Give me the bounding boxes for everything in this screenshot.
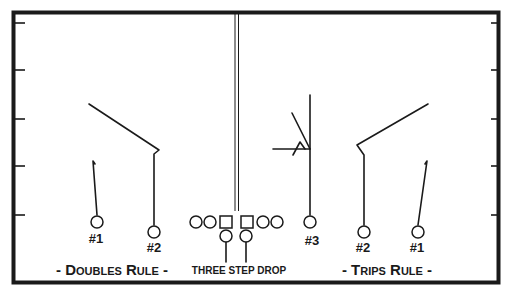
fade-route (418, 161, 427, 225)
caption-part: ULE (401, 265, 423, 277)
three-step-drop-caption: THREE STEP DROP (192, 265, 287, 276)
receiver-label: #1 (410, 240, 424, 255)
receiver-label: #2 (147, 240, 161, 255)
receiver-marker (412, 226, 424, 238)
receiver-marker (91, 216, 103, 228)
caption-part: - T (342, 261, 360, 278)
corner-route (89, 104, 159, 225)
back-marker (220, 230, 232, 242)
back-marker (240, 230, 252, 242)
lineman-marker (257, 216, 269, 228)
caption-part: - (423, 261, 432, 278)
doubles-rule-caption: - DOUBLES RULE - (56, 261, 168, 278)
caption-part: R (122, 261, 137, 278)
lineman-marker (271, 216, 283, 228)
receiver-marker (148, 226, 160, 238)
caption-part: - (159, 261, 168, 278)
receiver-label: #1 (89, 231, 103, 246)
lineman-square-marker (220, 216, 232, 228)
fade-route (93, 161, 97, 215)
caption-part: OUBLES (76, 265, 122, 277)
play-diagram: #1 #2 #3 #2 #1 - DOUBLES RULE - (0, 0, 509, 294)
trips-rule-caption: - TRIPS RULE - (342, 261, 432, 278)
doubles-left-1: #1 (89, 161, 103, 246)
right-yard-ticks (491, 23, 497, 215)
caption-part: RIPS (360, 265, 386, 277)
caption-part: R (386, 261, 401, 278)
lineman-marker (204, 216, 216, 228)
center-line (235, 14, 239, 211)
diagram-frame (14, 13, 499, 283)
caption-part: - D (56, 261, 76, 278)
receiver-label: #3 (305, 233, 319, 248)
center-square-marker (241, 216, 253, 228)
receiver-marker (304, 216, 316, 228)
caption-part: ULE (137, 265, 159, 277)
offensive-formation (190, 216, 283, 262)
trips-right-1: #1 (410, 161, 427, 255)
corner-route (357, 104, 428, 225)
receiver-marker (358, 226, 370, 238)
receiver-label: #2 (356, 240, 370, 255)
left-yard-ticks (15, 23, 25, 215)
lineman-marker (190, 216, 202, 228)
